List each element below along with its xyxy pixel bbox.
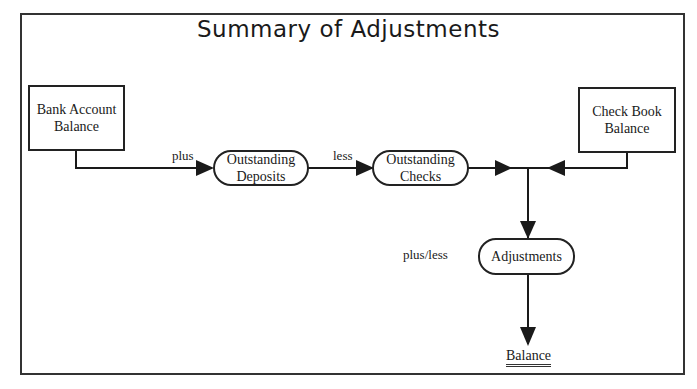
node-label-line1: Outstanding (386, 151, 454, 168)
node-label-line2: Balance (580, 120, 674, 137)
edge-checkbook-to-junction (528, 152, 627, 176)
edge-label-plus-less: plus/less (403, 247, 448, 263)
edge-junction-to-adjustments (520, 168, 536, 239)
node-balance: Balance (506, 348, 551, 367)
connector-lines (0, 0, 697, 389)
node-label-line2: Checks (400, 168, 441, 185)
node-label-line1: Bank Account (30, 101, 123, 118)
node-check-book-balance: Check Book Balance (578, 87, 676, 153)
node-label: Adjustments (491, 248, 562, 265)
node-outstanding-deposits: Outstanding Deposits (213, 150, 309, 186)
edge-label-less: less (333, 148, 353, 164)
node-outstanding-checks: Outstanding Checks (372, 150, 469, 186)
edge-checks-to-junction (468, 160, 528, 176)
arrowhead-icon (196, 160, 214, 176)
edge-adjustments-to-balance (520, 274, 536, 346)
node-label-line2: Balance (30, 118, 123, 135)
arrowhead-icon (520, 221, 536, 239)
node-bank-account-balance: Bank Account Balance (28, 85, 125, 151)
node-label-line2: Deposits (237, 168, 286, 185)
arrowhead-icon (495, 160, 512, 176)
node-adjustments: Adjustments (478, 238, 575, 275)
edge-label-plus: plus (172, 148, 194, 164)
arrowhead-icon (520, 327, 536, 346)
node-label-line1: Check Book (580, 103, 674, 120)
node-label-line1: Outstanding (227, 151, 295, 168)
arrowhead-icon (547, 160, 565, 176)
